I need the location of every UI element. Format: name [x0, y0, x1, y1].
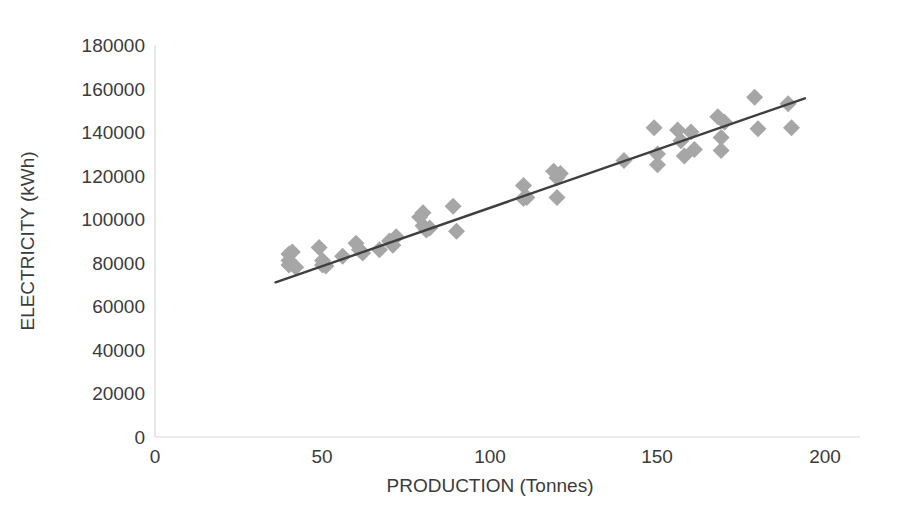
y-tick-label-60000: 60000	[92, 296, 145, 317]
x-tick-label-200: 200	[809, 446, 841, 467]
y-tick-label-100000: 100000	[82, 209, 145, 230]
x-tick-label-0: 0	[150, 446, 161, 467]
y-tick-label-120000: 120000	[82, 166, 145, 187]
y-tick-label-0: 0	[134, 427, 145, 448]
y-tick-label-160000: 160000	[82, 79, 145, 100]
scatter-chart: 180000 160000 140000 120000 100000 80000…	[0, 0, 897, 520]
x-tick-label-150: 150	[641, 446, 673, 467]
chart-canvas: 180000 160000 140000 120000 100000 80000…	[0, 0, 897, 520]
x-tick-label-50: 50	[311, 446, 332, 467]
x-tick-label-100: 100	[474, 446, 506, 467]
x-axis-title: PRODUCTION (Tonnes)	[387, 475, 594, 496]
y-tick-label-80000: 80000	[92, 253, 145, 274]
y-tick-label-20000: 20000	[92, 383, 145, 404]
y-axis-title: ELECTRICITY (kWh)	[17, 151, 38, 330]
y-tick-label-40000: 40000	[92, 340, 145, 361]
y-tick-label-140000: 140000	[82, 122, 145, 143]
y-tick-label-180000: 180000	[82, 35, 145, 56]
